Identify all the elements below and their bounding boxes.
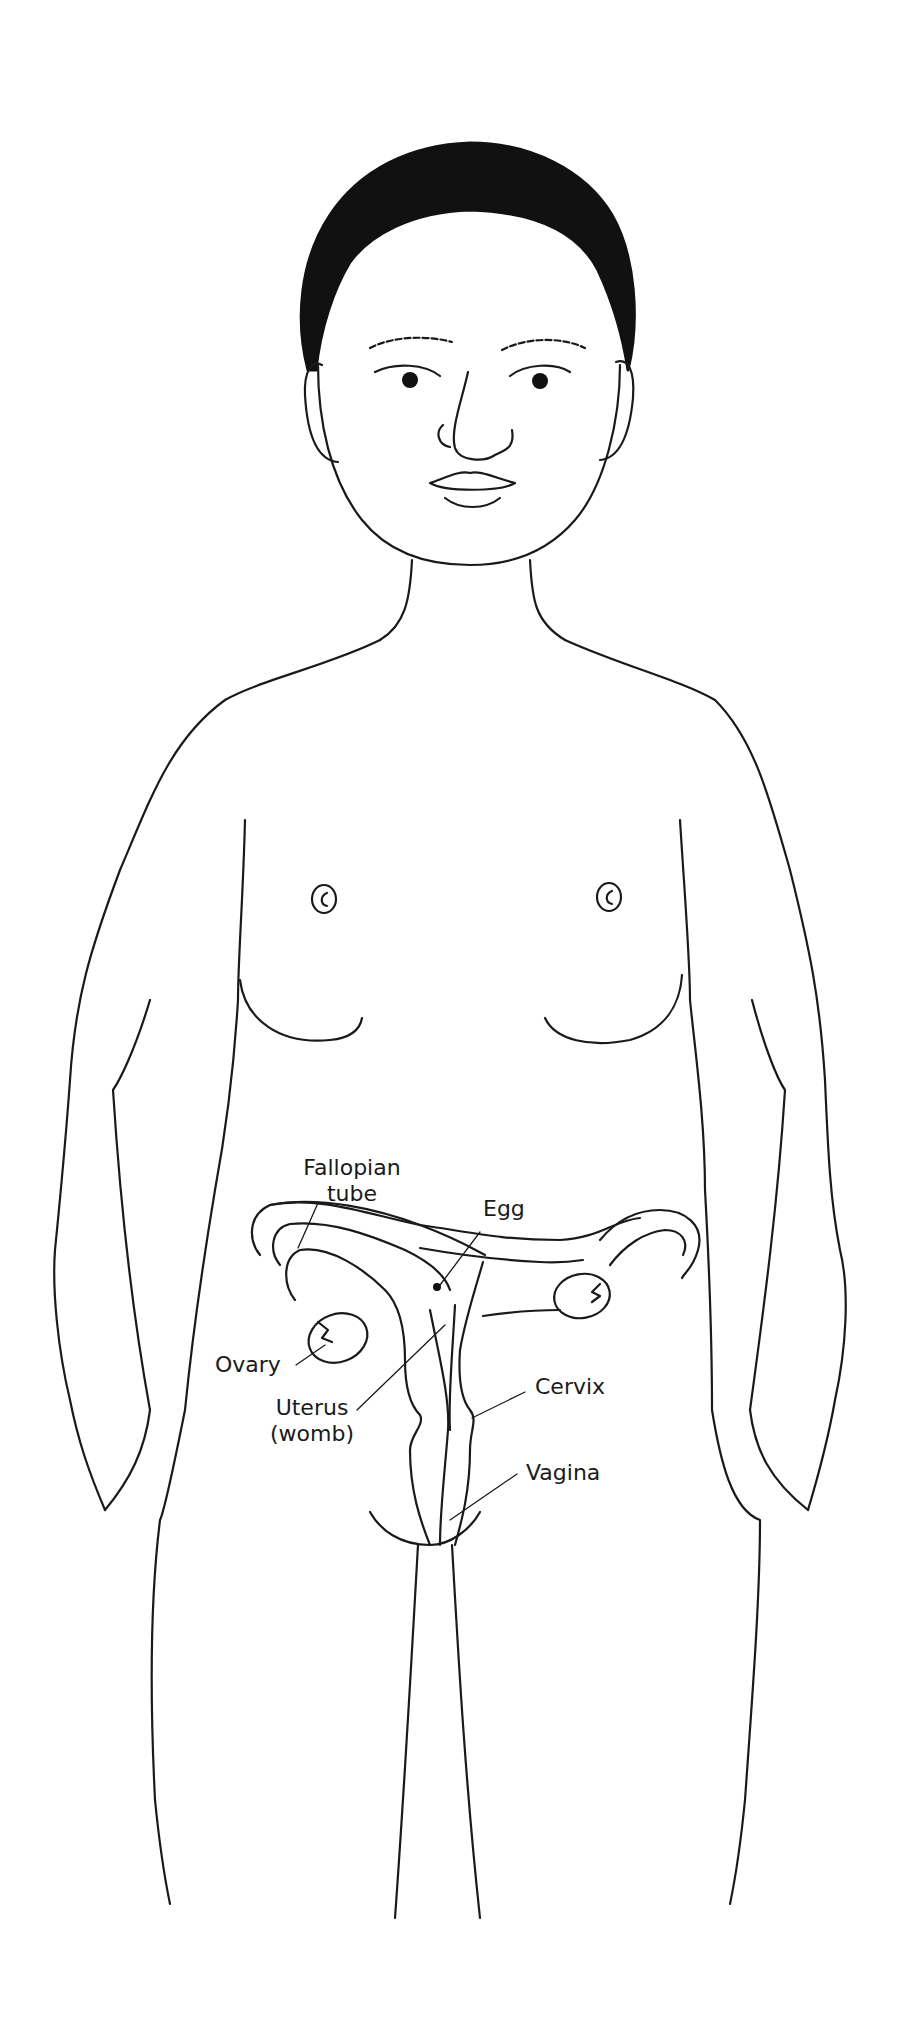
left-inner-arm — [105, 1000, 150, 1510]
left-breast — [240, 980, 362, 1041]
leader-egg — [440, 1232, 480, 1285]
right-shoulder-arm — [565, 640, 846, 1510]
neck-right — [530, 560, 565, 640]
body-illustration — [0, 0, 908, 2037]
label-uterus: Uterus (womb) — [262, 1395, 362, 1447]
left-torso-side — [185, 820, 245, 1410]
neck-left — [380, 560, 412, 640]
vulva — [370, 1512, 480, 1545]
label-fallopian-tube: Fallopian tube — [292, 1155, 412, 1207]
label-cervix: Cervix — [535, 1374, 605, 1400]
left-eyebrow — [370, 338, 452, 348]
left-inner-leg — [395, 1545, 418, 1918]
hair — [301, 143, 634, 370]
nose — [439, 372, 513, 460]
reproductive-organs — [252, 1202, 699, 1545]
left-shoulder-arm — [54, 640, 380, 1510]
right-inner-leg — [452, 1545, 480, 1918]
diagram-canvas: Fallopian tube Egg Ovary Uterus (womb) C… — [0, 0, 908, 2037]
uterus-wall-right — [455, 1262, 483, 1545]
right-ovary — [551, 1269, 614, 1322]
leader-vagina — [450, 1474, 517, 1520]
label-vagina: Vagina — [526, 1460, 600, 1486]
left-eye — [402, 372, 418, 388]
right-torso-side — [680, 820, 712, 1410]
right-inner-arm — [750, 1000, 808, 1510]
right-areola — [597, 883, 621, 911]
lips — [430, 472, 515, 489]
fallopian-tube-left-outer — [252, 1202, 485, 1255]
left-areola — [312, 885, 336, 913]
left-hip — [152, 1410, 185, 1904]
left-ovary — [302, 1305, 375, 1371]
leader-cervix — [472, 1392, 525, 1418]
fallopian-tube-left-inner — [273, 1223, 450, 1290]
face-outline — [318, 365, 620, 565]
right-breast — [545, 975, 682, 1043]
right-eyebrow — [502, 340, 585, 350]
right-hip — [712, 1410, 760, 1904]
leader-fallopian — [298, 1203, 318, 1248]
right-eye — [532, 373, 548, 389]
label-ovary: Ovary — [215, 1352, 281, 1378]
leader-uterus — [357, 1325, 445, 1410]
label-egg: Egg — [483, 1196, 525, 1222]
uterus-wall-left — [405, 1360, 430, 1545]
